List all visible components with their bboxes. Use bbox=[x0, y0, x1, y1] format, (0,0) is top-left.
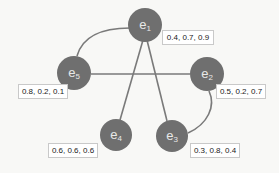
node-e2-subscript: 2 bbox=[208, 73, 212, 82]
node-e3-values: 0.3, 0.8, 0.4 bbox=[190, 143, 240, 158]
node-e1-subscript: 1 bbox=[146, 24, 150, 33]
node-e5-values: 0.8, 0.2, 0.1 bbox=[18, 84, 68, 99]
edge-e1-e4 bbox=[120, 40, 143, 120]
node-e3-label: e3 bbox=[166, 129, 178, 144]
node-e2-values: 0.5, 0.2, 0.7 bbox=[216, 84, 266, 99]
node-e4-subscript: 4 bbox=[117, 134, 121, 143]
node-e5-label: e5 bbox=[68, 66, 80, 81]
node-e5-subscript: 5 bbox=[75, 72, 79, 81]
edge-e1-e5 bbox=[77, 28, 130, 56]
node-e4-values: 0.6, 0.6, 0.6 bbox=[48, 143, 98, 158]
node-e4-label: e4 bbox=[110, 128, 122, 143]
graph-diagram: e1 e2 e3 e4 e5 0.4, 0.7, 0.9 0.5, 0.2, 0… bbox=[0, 0, 279, 173]
node-e3-subscript: 3 bbox=[173, 135, 177, 144]
node-e2-label: e2 bbox=[201, 67, 213, 82]
node-e1-values: 0.4, 0.7, 0.9 bbox=[162, 30, 214, 45]
node-e1-label: e1 bbox=[139, 18, 151, 33]
edge-e1-e3 bbox=[147, 40, 167, 121]
edge-e2-e3 bbox=[188, 91, 211, 133]
